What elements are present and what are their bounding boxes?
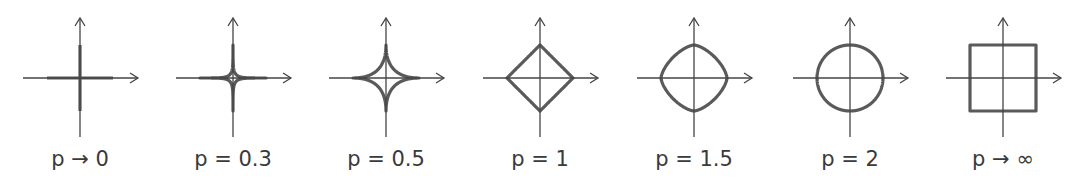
panel-p-2: p = 2 — [773, 0, 927, 189]
panel-label-p-1-5: p = 1.5 — [617, 147, 771, 171]
panel-label-p-0-5: p = 0.5 — [309, 147, 463, 171]
lp-unit-ball-figure: p → 0 p = 0.3 p = 0.5 p = 1 p = 1.5 p = … — [0, 0, 1079, 189]
panel-p-infinity: p → ∞ — [926, 0, 1079, 189]
panel-label-p-infinity: p → ∞ — [926, 147, 1079, 171]
panel-p-1: p = 1 — [463, 0, 617, 189]
panel-p-1-5: p = 1.5 — [617, 0, 771, 189]
panel-label-p-0-3: p = 0.3 — [156, 147, 310, 171]
panel-label-p-2: p = 2 — [773, 147, 927, 171]
panel-label-p-1: p = 1 — [463, 147, 617, 171]
panel-p-0-3: p = 0.3 — [156, 0, 310, 189]
panel-label-p-0: p → 0 — [3, 147, 157, 171]
panel-p-0-5: p = 0.5 — [309, 0, 463, 189]
panel-p-0: p → 0 — [3, 0, 157, 189]
